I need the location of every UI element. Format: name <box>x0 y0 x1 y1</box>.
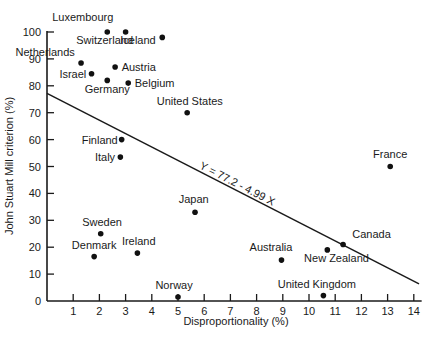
point-marker <box>175 294 181 300</box>
point-label: Sweden <box>82 216 122 228</box>
point-marker <box>184 110 190 116</box>
point-label: Canada <box>352 228 391 240</box>
point-marker <box>89 71 95 77</box>
y-tick-label: 50 <box>29 161 41 173</box>
regression-equation-label: Y = 77.2 - 4.99 X <box>198 159 278 208</box>
point-marker <box>192 209 198 215</box>
point-label: Belgium <box>135 77 175 89</box>
point-marker <box>78 60 84 66</box>
y-tick-label: 70 <box>29 107 41 119</box>
point-label: Luxembourg <box>52 11 113 23</box>
y-tick-label: 80 <box>29 80 41 92</box>
data-point: New Zealand <box>304 247 369 264</box>
point-marker <box>340 242 346 248</box>
data-point: Finland <box>82 134 125 146</box>
x-tick-label: 3 <box>123 305 129 317</box>
point-label: United States <box>157 95 224 107</box>
data-point: Luxembourg <box>52 11 128 35</box>
point-marker <box>118 154 124 160</box>
point-marker <box>112 64 118 70</box>
data-point: Italy <box>95 151 123 163</box>
data-point: United States <box>157 95 224 116</box>
x-tick-label: 2 <box>96 305 102 317</box>
point-marker <box>119 137 125 143</box>
y-tick-label: 60 <box>29 134 41 146</box>
x-tick-label: 11 <box>329 305 340 317</box>
point-label: Norway <box>155 279 193 291</box>
data-point: Sweden <box>82 216 122 237</box>
point-label: Ireland <box>122 235 156 247</box>
data-point: Australia <box>250 241 294 263</box>
point-label: New Zealand <box>304 252 369 264</box>
point-label: Australia <box>250 241 294 253</box>
point-label: Germany <box>85 83 131 95</box>
data-point: Belgium <box>125 77 174 89</box>
data-point: Norway <box>155 279 193 300</box>
x-tick-label: 10 <box>303 305 315 317</box>
data-point: Germany <box>85 78 131 95</box>
point-label: United Kingdom <box>278 278 356 290</box>
point-marker <box>279 257 285 263</box>
data-points: LuxembourgSwitzerlandIcelandNetherlandsA… <box>16 11 408 300</box>
data-point: Austria <box>112 61 156 73</box>
point-marker <box>98 231 104 237</box>
point-marker <box>135 250 141 256</box>
data-point: Netherlands <box>16 46 84 66</box>
point-label: Japan <box>179 193 209 205</box>
data-point: Ireland <box>122 235 156 256</box>
x-tick-label: 14 <box>408 305 420 317</box>
scatter-chart: 1234567891011121314010203040506070809010… <box>0 0 439 344</box>
data-point: United Kingdom <box>278 278 356 299</box>
point-label: Israel <box>59 68 86 80</box>
x-tick-label: 12 <box>355 305 367 317</box>
data-point: France <box>373 148 407 169</box>
data-point: Canada <box>340 228 391 248</box>
y-tick-label: 100 <box>23 26 41 38</box>
point-label: Iceland <box>120 34 155 46</box>
point-label: Austria <box>122 61 157 73</box>
point-marker <box>159 35 165 41</box>
point-label: Finland <box>82 134 118 146</box>
point-label: Denmark <box>72 239 117 251</box>
point-label: Italy <box>95 151 116 163</box>
point-label: Netherlands <box>16 46 76 58</box>
point-marker <box>321 293 327 299</box>
x-tick-label: 1 <box>70 305 76 317</box>
y-axis-label: John Stuart Mill criterion (%) <box>3 97 15 235</box>
point-label: France <box>373 148 407 160</box>
y-tick-label: 0 <box>35 295 41 307</box>
y-tick-label: 30 <box>29 214 41 226</box>
point-marker <box>125 80 131 86</box>
point-marker <box>387 164 393 170</box>
data-point: Israel <box>59 68 94 80</box>
x-axis-label: Disproportionality (%) <box>183 315 288 327</box>
y-tick-label: 40 <box>29 187 41 199</box>
x-tick-label: 5 <box>175 305 181 317</box>
data-point: Japan <box>179 193 209 215</box>
x-tick-label: 4 <box>149 305 155 317</box>
plot-area: 1234567891011121314010203040506070809010… <box>0 0 439 344</box>
point-marker <box>91 254 97 260</box>
data-point: Denmark <box>72 239 117 260</box>
data-point: Iceland <box>120 34 165 46</box>
y-tick-label: 10 <box>29 268 41 280</box>
y-tick-label: 20 <box>29 241 41 253</box>
x-tick-label: 13 <box>381 305 393 317</box>
